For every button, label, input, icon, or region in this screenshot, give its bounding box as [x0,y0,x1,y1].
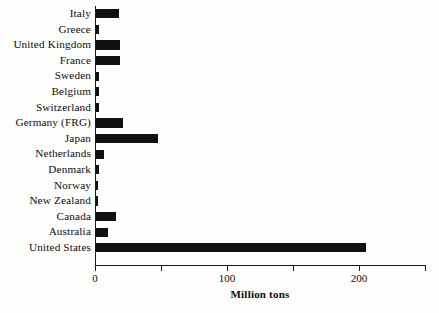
bar [95,56,120,65]
category-label: United States [0,240,91,256]
category-label: Denmark [0,162,91,178]
bar-row: Denmark [0,162,439,178]
bar-row: Germany (FRG) [0,115,439,131]
x-axis-title: Million tons [95,288,425,300]
x-axis-tick-label: 200 [351,272,368,284]
category-label: Canada [0,209,91,225]
bar-row: Italy [0,6,439,22]
x-axis-tick [95,265,96,271]
bar [95,134,158,143]
bar-row: Belgium [0,84,439,100]
category-label: Belgium [0,84,91,100]
bar [95,40,120,49]
bar-row: United Kingdom [0,37,439,53]
category-label: Japan [0,131,91,147]
bar [95,212,116,221]
bar [95,118,123,127]
category-label: Sweden [0,68,91,84]
x-axis-tick-label: 100 [219,272,236,284]
bar-row: Switzerland [0,100,439,116]
bar-row: Norway [0,178,439,194]
bar-row: Greece [0,22,439,38]
x-axis-tick [293,265,294,271]
category-label: France [0,53,91,69]
category-label: Norway [0,178,91,194]
category-label: United Kingdom [0,37,91,53]
bar [95,9,119,18]
bar-row: United States [0,240,439,256]
bar-row: New Zealand [0,193,439,209]
category-label: Australia [0,224,91,240]
category-label: Italy [0,6,91,22]
x-axis-tick [359,265,360,271]
category-label: Greece [0,22,91,38]
x-axis-tick-label: 0 [92,272,98,284]
bar-row: Netherlands [0,146,439,162]
category-label: Germany (FRG) [0,115,91,131]
x-axis-tick [161,265,162,271]
chart-figure: ItalyGreeceUnited KingdomFranceSwedenBel… [0,0,439,313]
bar-row: Canada [0,209,439,225]
y-axis-spine [95,6,96,265]
bar-row: Sweden [0,68,439,84]
x-axis-tick [227,265,228,271]
x-axis-line [95,265,425,266]
figure-caption [12,304,212,313]
bar-row: France [0,53,439,69]
category-label: Netherlands [0,146,91,162]
bar [95,243,366,252]
category-label: New Zealand [0,193,91,209]
x-axis-tick [425,265,426,271]
category-label: Switzerland [0,100,91,116]
bar-row: Japan [0,131,439,147]
bar [95,228,108,237]
bar-row: Australia [0,224,439,240]
